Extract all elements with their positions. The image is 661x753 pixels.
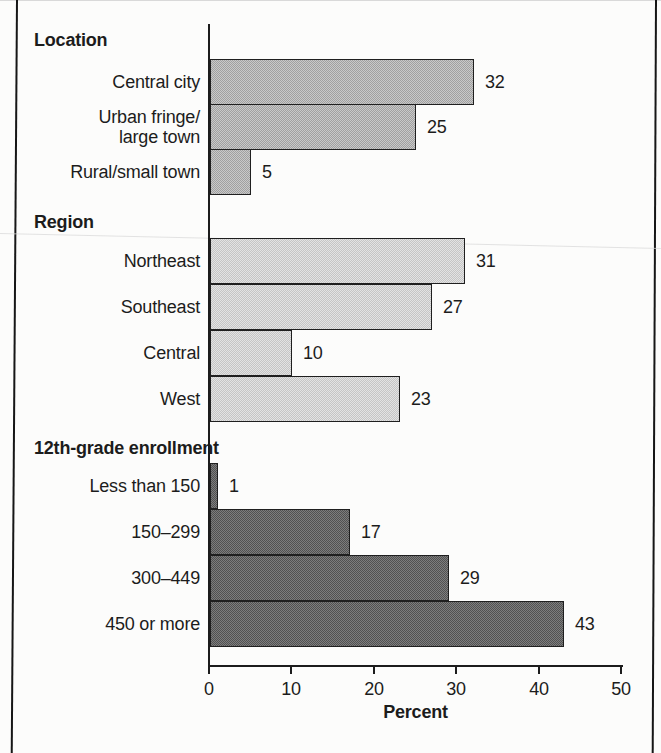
bar-value-label: 31: [476, 238, 496, 284]
x-tick-mark: [208, 667, 210, 674]
bar-value-label: 17: [361, 509, 381, 555]
x-tick-label: 40: [519, 679, 559, 700]
category-label: Less than 150: [20, 463, 209, 509]
category-label: Urban fringe/ large town: [20, 104, 209, 150]
bar: [210, 555, 449, 601]
category-label: Rural/small town: [20, 149, 209, 195]
scanned-bar-chart-figure: Percent LocationCentral city32Urban frin…: [0, 0, 661, 753]
bar-value-label: 29: [460, 555, 480, 601]
category-label: West: [20, 376, 209, 422]
bar: [210, 284, 432, 330]
x-axis-title: Percent: [208, 702, 623, 723]
group-header: Location: [34, 30, 107, 51]
category-label: 300–449: [20, 555, 209, 601]
bar-value-label: 25: [427, 104, 447, 150]
x-tick-mark: [290, 667, 292, 674]
bar: [210, 601, 564, 647]
x-tick-label: 0: [189, 679, 229, 700]
scan-top-edge-line: [0, 0, 661, 1]
bar: [210, 149, 251, 195]
category-label: Southeast: [20, 284, 209, 330]
x-tick-mark: [373, 667, 375, 674]
page-border-right: [652, 0, 657, 753]
bar-value-label: 10: [303, 330, 323, 376]
bar: [210, 330, 292, 376]
bar: [210, 238, 465, 284]
bar: [210, 376, 400, 422]
bar-value-label: 27: [443, 284, 463, 330]
x-tick-mark: [538, 667, 540, 674]
x-tick-label: 50: [601, 679, 641, 700]
bar: [210, 509, 350, 555]
bar-value-label: 32: [485, 59, 505, 105]
x-tick-label: 20: [354, 679, 394, 700]
category-label: Northeast: [20, 238, 209, 284]
bar: [210, 463, 218, 509]
bar-value-label: 1: [229, 463, 239, 509]
category-label: Central city: [20, 59, 209, 105]
x-tick-label: 30: [436, 679, 476, 700]
bar-value-label: 23: [411, 376, 431, 422]
group-header: 12th-grade enrollment: [34, 438, 219, 459]
bar: [210, 104, 416, 150]
x-tick-mark: [620, 667, 622, 674]
bar: [210, 59, 474, 105]
x-tick-label: 10: [271, 679, 311, 700]
group-header: Region: [34, 212, 94, 233]
page-border-left: [11, 0, 18, 753]
bar-value-label: 43: [575, 601, 595, 647]
bar-value-label: 5: [262, 149, 272, 195]
x-tick-mark: [455, 667, 457, 674]
category-label: Central: [20, 330, 209, 376]
x-axis-line: [208, 665, 623, 667]
category-label: 450 or more: [20, 601, 209, 647]
category-label: 150–299: [20, 509, 209, 555]
